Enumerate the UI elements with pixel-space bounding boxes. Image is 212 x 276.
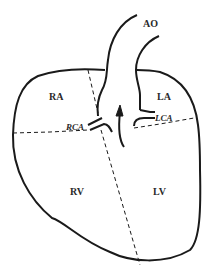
- label-lv: LV: [153, 186, 167, 197]
- heart-outline: [13, 69, 200, 260]
- flow-arrow-shaft: [119, 112, 124, 147]
- heart-diagram: AO RA LA RCA LCA RV LV: [0, 0, 212, 276]
- label-rca: RCA: [65, 122, 84, 132]
- aorta-left-wall: [98, 15, 137, 116]
- lca-vessel-lower: [134, 118, 155, 126]
- rca-vessel-upper: [88, 118, 102, 125]
- label-la: LA: [157, 91, 172, 102]
- flow-arrow-head: [116, 105, 123, 116]
- label-ra: RA: [49, 91, 64, 102]
- label-rv: RV: [70, 186, 85, 197]
- aorta-right-wall: [136, 36, 159, 110]
- label-ao: AO: [143, 18, 158, 29]
- interatrial-septum-line: [88, 70, 98, 113]
- lca-vessel-upper: [140, 110, 155, 112]
- heart-diagram-svg: AO RA LA RCA LCA RV LV: [0, 0, 212, 276]
- interventricular-septum-line: [101, 130, 140, 265]
- label-lca: LCA: [154, 113, 173, 123]
